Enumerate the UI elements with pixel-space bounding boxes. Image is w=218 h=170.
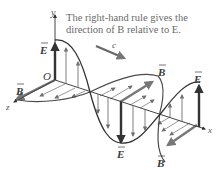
em-wave-diagram: y O x z c E E E B B B <box>0 0 218 170</box>
e-label-right: E <box>193 73 201 85</box>
e-wave-curve <box>55 40 200 143</box>
y-axis-label: y <box>50 7 56 18</box>
b-field-arrows <box>40 84 190 135</box>
x-axis-label: x <box>207 125 212 135</box>
b-label-left: B <box>15 85 23 97</box>
e-label-bottom: E <box>116 148 124 160</box>
e-label-origin: E <box>39 44 47 56</box>
b-label-bottom: B <box>156 157 164 169</box>
speed-label: c <box>112 40 116 50</box>
propagation-arrow <box>96 46 124 58</box>
origin-label: O <box>43 70 51 82</box>
z-axis-label: z <box>5 102 10 112</box>
b-label-top: B <box>157 66 165 78</box>
